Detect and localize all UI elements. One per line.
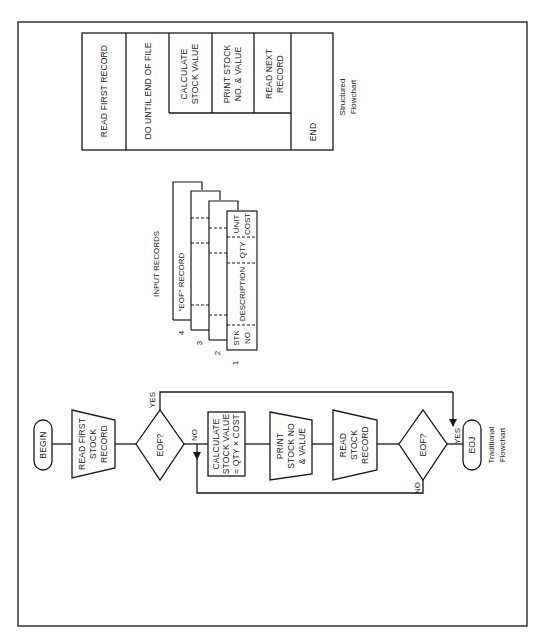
traditional-caption: Traditional xyxy=(487,426,496,463)
struct-caption-2: Flowchart xyxy=(349,79,358,114)
structured-labels: READ FIRST RECORD DO UNTIL END OF FILE C… xyxy=(99,42,358,141)
traditional-caption-2: Flowchart xyxy=(498,427,507,462)
field-no: NO xyxy=(243,332,252,344)
input-records-title: INPUT RECORDS xyxy=(152,231,161,297)
struct-do-until: DO UNTIL END OF FILE xyxy=(143,42,153,139)
begin-label: BEGIN xyxy=(38,431,48,458)
eof2-label: EOF? xyxy=(418,433,428,456)
no2-label: NO xyxy=(413,482,422,494)
yes2-label: YES xyxy=(453,428,462,444)
eof-record-label: “EOF” RECORD xyxy=(177,252,186,311)
field-stk: STK xyxy=(232,330,241,346)
read-label-3: RECORD xyxy=(360,426,370,464)
print-label-2: STOCK NO xyxy=(286,423,296,469)
print-label: PRINT xyxy=(275,432,285,459)
read-first-label: READ FIRST xyxy=(77,417,87,470)
read-first-label-2: STOCK xyxy=(88,429,98,459)
struct-end: END xyxy=(308,123,318,141)
read-first-label-3: RECORD xyxy=(99,425,109,463)
card-number-4: 4 xyxy=(177,330,186,335)
yes1-label: YES xyxy=(148,392,157,408)
struct-calculate: CALCULATE xyxy=(179,48,189,99)
struct-read-first: READ FIRST RECORD xyxy=(99,45,109,137)
structured-flowchart xyxy=(82,33,333,150)
no1-label: NO xyxy=(190,429,199,441)
card-number-2: 2 xyxy=(213,350,222,355)
field-cost: COST xyxy=(243,213,252,235)
flowchart-figure: READ FIRST RECORD DO UNTIL END OF FILE C… xyxy=(0,0,539,643)
card-number-1: 1 xyxy=(231,360,240,365)
struct-calculate-2: STOCK VALUE xyxy=(190,44,200,105)
traditional-labels: BEGIN READ FIRST STOCK RECORD EOF? YES N… xyxy=(38,392,507,494)
struct-caption: Structured xyxy=(338,79,347,116)
read-label-2: STOCK xyxy=(349,430,359,460)
struct-read-next-2: RECORD xyxy=(275,55,285,93)
calculate-label: CALCULATE xyxy=(211,418,221,469)
field-description: DESCRIPTION xyxy=(238,266,247,321)
struct-print: PRINT STOCK xyxy=(222,45,232,104)
calculate-label-2: STOCK VALUE xyxy=(221,414,231,475)
eoj-label: EOJ xyxy=(467,436,477,453)
field-unit: UNIT xyxy=(232,215,241,234)
card-number-3: 3 xyxy=(195,340,204,345)
eof1-label: EOF? xyxy=(155,433,165,456)
struct-read-next: READ NEXT xyxy=(264,48,274,99)
calculate-label-3: = QTY × COST xyxy=(231,413,241,473)
print-label-3: & VALUE xyxy=(297,428,307,465)
field-qty: QTY xyxy=(238,241,247,258)
struct-print-2: NO. & VALUE xyxy=(233,47,243,102)
read-label: READ xyxy=(338,433,348,457)
